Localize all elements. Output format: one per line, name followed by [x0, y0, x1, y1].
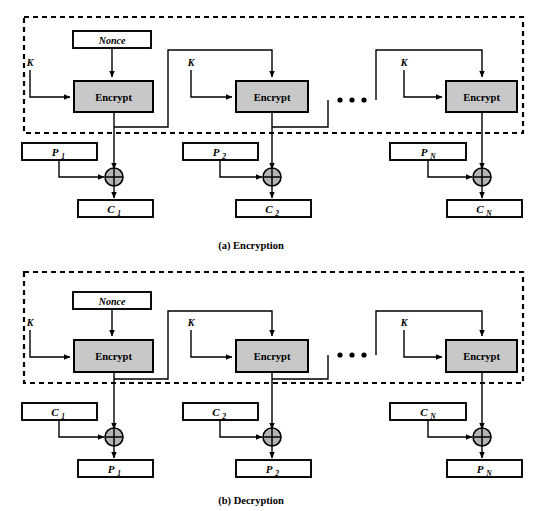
enc-input-subscript-2: 2: [221, 152, 226, 161]
dec-key-arrow-2: [191, 330, 232, 357]
dec-ellipsis-dot-2: [349, 352, 354, 357]
dec-input-subscript-2: 2: [221, 412, 226, 421]
dec-output-box-1: [78, 460, 153, 477]
enc-input-subscript-1: 1: [61, 152, 65, 161]
dec-input-subscript-n: N: [429, 412, 436, 421]
dec-input-label-n: C: [420, 406, 428, 418]
dec-encrypt-label-n: Encrypt: [463, 351, 500, 362]
enc-input-arrow-1: [59, 160, 104, 177]
dec-key-label-1: K: [26, 317, 35, 328]
dec-output-label-2: P: [266, 463, 273, 475]
caption-decryption: (b) Decryption: [218, 495, 284, 507]
dec-encrypt-label-1: Encrypt: [95, 351, 132, 362]
enc-input-box-n: [390, 143, 466, 160]
enc-output-box-2: [236, 200, 311, 217]
dec-input-subscript-1: 1: [61, 412, 65, 421]
dec-encrypt-label-2: Encrypt: [254, 351, 291, 362]
dec-ellipsis-dot-3: [361, 352, 366, 357]
enc-key-label-1: K: [26, 57, 35, 68]
enc-output-label-1: C: [107, 203, 115, 215]
enc-key-arrow-1: [30, 70, 70, 97]
panel-decryption: Nonce K Encrypt C 1 P 1 K Encrypt: [22, 272, 523, 507]
dec-input-arrow-n: [428, 420, 472, 437]
enc-encrypt-label-2: Encrypt: [254, 92, 291, 103]
enc-encrypt-label-1: Encrypt: [95, 92, 132, 103]
enc-nonce-label: Nonce: [98, 35, 126, 46]
dec-input-box-n: [390, 403, 466, 420]
enc-output-box-1: [78, 200, 153, 217]
enc-ellipsis-dot-1: [337, 97, 342, 102]
enc-output-label-2: C: [265, 203, 273, 215]
enc-input-label-2: P: [213, 146, 220, 158]
dec-output-subscript-1: 1: [117, 469, 121, 478]
dec-ellipsis-dot-1: [337, 352, 342, 357]
figure-canvas: Nonce K Encrypt P 1 C: [0, 0, 552, 511]
dec-nonce-label: Nonce: [98, 296, 126, 307]
enc-output-subscript-n: N: [485, 209, 492, 218]
dec-key-arrow-n: [404, 330, 442, 357]
enc-input-arrow-n: [428, 160, 472, 177]
enc-output-label-n: C: [476, 203, 484, 215]
dec-output-box-2: [236, 460, 311, 477]
enc-input-subscript-n: N: [429, 152, 436, 161]
dec-input-box-2: [183, 403, 258, 420]
enc-key-arrow-2: [191, 70, 232, 97]
dec-key-label-n: K: [400, 317, 409, 328]
enc-input-box-1: [22, 143, 97, 160]
enc-output-subscript-1: 1: [117, 209, 121, 218]
dec-key-arrow-1: [30, 330, 70, 357]
dec-input-arrow-1: [59, 420, 104, 437]
enc-input-box-2: [183, 143, 258, 160]
dec-output-label-n: P: [477, 463, 484, 475]
dec-input-label-2: C: [212, 406, 220, 418]
enc-ellipsis-dot-3: [361, 97, 366, 102]
enc-output-box-n: [447, 200, 522, 217]
enc-key-label-2: K: [187, 57, 196, 68]
caption-encryption: (a) Encryption: [218, 240, 284, 252]
enc-encrypt-label-n: Encrypt: [463, 92, 500, 103]
dec-input-box-1: [22, 403, 97, 420]
dec-output-subscript-2: 2: [274, 469, 279, 478]
enc-key-arrow-n: [404, 70, 442, 97]
ctr-mode-diagram: Nonce K Encrypt P 1 C: [0, 0, 552, 511]
dec-input-arrow-2: [220, 420, 262, 437]
enc-output-subscript-2: 2: [274, 209, 279, 218]
enc-input-label-n: P: [421, 146, 428, 158]
enc-input-arrow-2: [220, 160, 262, 177]
panel-encryption: Nonce K Encrypt P 1 C: [22, 17, 523, 252]
dec-input-label-1: C: [51, 406, 59, 418]
enc-input-label-1: P: [52, 146, 59, 158]
enc-ellipsis-dot-2: [349, 97, 354, 102]
dec-output-label-1: P: [108, 463, 115, 475]
dec-key-label-2: K: [187, 317, 196, 328]
enc-key-label-n: K: [400, 57, 409, 68]
dec-output-subscript-n: N: [485, 469, 492, 478]
dec-output-box-n: [447, 460, 522, 477]
